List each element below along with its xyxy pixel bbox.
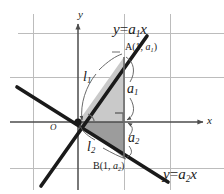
line-l1-eq-var: x xyxy=(140,21,147,37)
point-B-close-paren: ) xyxy=(121,160,124,171)
line-l2-eq-lhs: y xyxy=(163,166,170,182)
origin-label: O xyxy=(50,123,57,132)
segment-a2-symbol: a xyxy=(128,130,135,145)
line-l2-name-label: l2 xyxy=(87,140,95,155)
line-l1-eq-slope: a xyxy=(128,21,136,37)
line-l1-equation-label: y=a1x xyxy=(113,22,147,39)
segment-a2-label: a2 xyxy=(128,131,139,146)
line-l2-eq-slope: a xyxy=(178,166,186,182)
segment-a1-label: a1 xyxy=(127,82,138,97)
line-l1-eq-op: = xyxy=(120,21,128,37)
segment-a2-subscript: 2 xyxy=(135,136,139,146)
segment-a1-symbol: a xyxy=(127,81,134,96)
line-l1-name-label: l1 xyxy=(83,70,91,85)
line-l1-name-subscript: 1 xyxy=(87,75,91,85)
point-A-close-paren: ) xyxy=(154,41,157,52)
line-l2-name-subscript: 2 xyxy=(91,145,95,155)
point-B-label: B(1, a2) xyxy=(93,161,124,172)
origin-dot xyxy=(74,118,81,125)
line-l2-eq-var: x xyxy=(190,166,197,182)
line-l2-eq-op: = xyxy=(170,166,178,182)
y-axis-label: y xyxy=(78,9,83,20)
point-A-label: A(1, a1) xyxy=(125,42,157,53)
point-B-name: B xyxy=(93,160,100,171)
segment-a1-subscript: 1 xyxy=(134,87,138,97)
x-axis-label: x xyxy=(207,115,212,126)
line-l1-eq-lhs: y xyxy=(113,21,120,37)
line-l2-equation-label: y=a2x xyxy=(163,167,197,184)
